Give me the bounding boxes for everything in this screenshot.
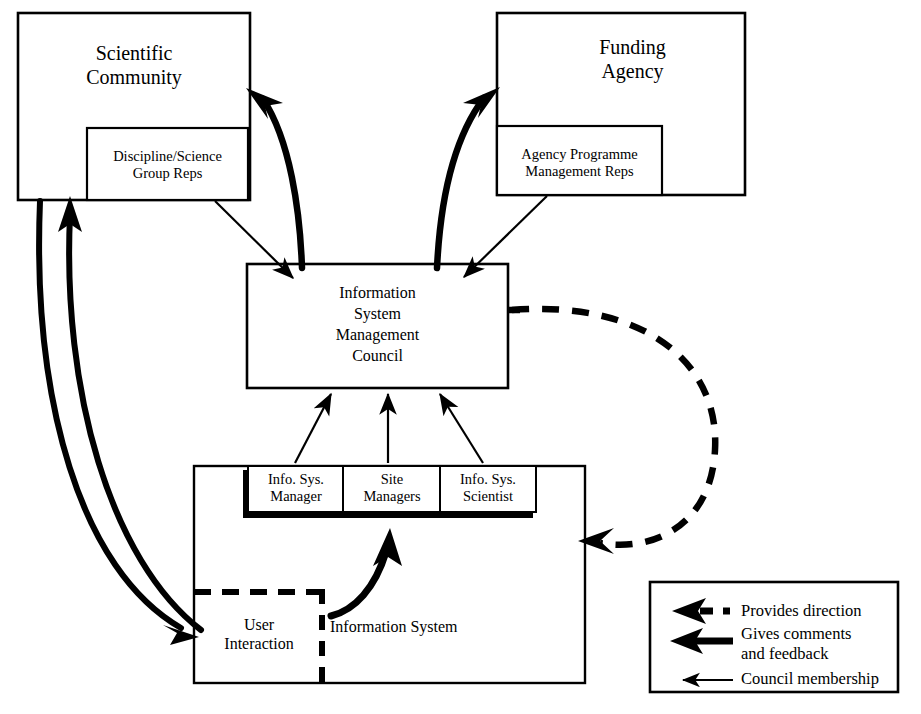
legend-label-gives-comments: Gives comments and feedback [741,624,851,664]
legend-label-council-membership: Council membership [741,669,879,689]
role-boxes-group [243,466,536,518]
discipline-science-group-reps-box [87,128,248,200]
diagram-canvas: Scientific Community Discipline/Science … [0,0,921,714]
agency-programme-management-reps-box [497,126,662,195]
council-box [247,264,508,388]
legend-label-provides-direction: Provides direction [741,601,862,621]
